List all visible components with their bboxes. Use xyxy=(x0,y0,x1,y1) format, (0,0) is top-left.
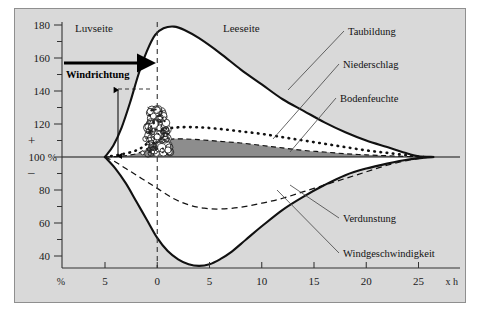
hedge-foliage-dot xyxy=(160,121,162,123)
hedge-foliage-dot xyxy=(150,109,153,112)
y-tick-label: 140 xyxy=(34,85,51,97)
hedge-foliage-dot xyxy=(152,122,155,125)
label-taubildung: Taubildung xyxy=(348,26,396,37)
x-tick-label: 15 xyxy=(309,275,321,287)
x-tick-label: 20 xyxy=(361,275,373,287)
hedge-foliage-dot xyxy=(162,133,164,135)
y-tick-label: 160 xyxy=(34,52,51,64)
hedge-foliage-dot xyxy=(147,137,149,139)
hedge-foliage-dot xyxy=(162,135,164,137)
hedge-foliage-dot xyxy=(148,114,151,117)
y-tick-label: 80 xyxy=(39,184,51,196)
hedge-foliage xyxy=(141,151,145,155)
y-tick-label: 60 xyxy=(39,217,51,229)
hedge-foliage xyxy=(165,147,171,153)
hedge-foliage-dot xyxy=(167,133,169,135)
windbreak-effect-chart: 180160140120806040 50510152025 + – 100 %… xyxy=(0,0,480,311)
hedge-foliage-dot xyxy=(149,120,150,121)
label-windgeschwindigkeit: Windgeschwindigkeit xyxy=(343,248,435,259)
y-axis-unit-label: % xyxy=(57,276,65,287)
hedge-foliage-dot xyxy=(151,149,153,151)
x-axis-tick-labels: 50510152025 xyxy=(102,275,424,287)
y-tick-label: 120 xyxy=(34,118,51,130)
hedge-foliage-dot xyxy=(162,152,164,154)
hedge-foliage-dot xyxy=(159,111,160,112)
hedge-foliage-dot xyxy=(146,148,148,150)
hedge-foliage-dot xyxy=(152,142,155,145)
label-niederschlag: Niederschlag xyxy=(343,59,399,70)
hedge-foliage-dot xyxy=(166,153,168,155)
y-axis-ticks xyxy=(54,25,62,256)
label-bodenfeuchte: Bodenfeuchte xyxy=(340,93,399,104)
hedge-foliage-dot xyxy=(160,142,161,143)
y-tick-label: 40 xyxy=(39,250,51,262)
hedge-foliage-dot xyxy=(159,114,162,117)
hedge-foliage xyxy=(154,134,160,140)
label-luvseite: Luvseite xyxy=(75,22,113,34)
hedge-foliage xyxy=(151,150,154,153)
y-axis-tick-labels: 180160140120806040 xyxy=(34,19,51,262)
x-axis-ticks xyxy=(105,262,419,268)
x-tick-label: 5 xyxy=(102,275,108,287)
hedge-foliage-dot xyxy=(148,128,150,130)
hedge-foliage-dot xyxy=(162,117,164,119)
x-tick-label: 0 xyxy=(155,275,161,287)
x-tick-label: 25 xyxy=(413,275,425,287)
hedge-foliage-dot xyxy=(149,132,151,134)
hedge-foliage-dot xyxy=(158,112,159,113)
hedge-foliage-dot xyxy=(163,139,165,141)
x-tick-label: 5 xyxy=(207,275,213,287)
hedge-foliage-dot xyxy=(148,151,150,153)
hedge-foliage-dot xyxy=(156,148,158,150)
hedge-foliage-dot xyxy=(155,128,158,131)
label-leeseite: Leeseite xyxy=(223,22,260,34)
y-baseline-label: 100 % xyxy=(29,151,57,163)
plus-sign: + xyxy=(28,133,35,148)
hedge-foliage-dot xyxy=(167,138,169,140)
hedge-foliage-dot xyxy=(162,148,164,150)
hedge-foliage-dot xyxy=(152,146,154,148)
hedge-foliage-dot xyxy=(153,138,155,140)
hedge-foliage-dot xyxy=(165,127,167,129)
hedge-foliage-dot xyxy=(161,128,164,131)
hedge-foliage-dot xyxy=(157,133,159,135)
hedge-foliage-dot xyxy=(163,120,165,122)
y-tick-label: 180 xyxy=(34,19,51,31)
leader-windgeschwindigkeit xyxy=(277,190,339,253)
x-tick-label: 10 xyxy=(256,275,268,287)
label-verdunstung: Verdunstung xyxy=(343,213,397,224)
hedge-foliage-dot xyxy=(147,141,150,144)
leader-taubildung xyxy=(288,31,344,90)
figure-root: 180160140120806040 50510152025 + – 100 %… xyxy=(0,0,480,311)
minus-sign: – xyxy=(27,164,35,179)
hedge-foliage-dot xyxy=(150,125,152,127)
hedge-foliage-dot xyxy=(155,108,157,110)
x-axis-unit-label: x h xyxy=(446,276,459,287)
label-windrichtung: Windrichtung xyxy=(66,69,130,80)
